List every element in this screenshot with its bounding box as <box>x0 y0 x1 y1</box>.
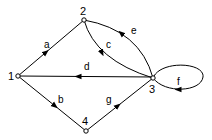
node-label-2: 2 <box>80 5 86 17</box>
node-4: 4 <box>82 115 88 133</box>
edge-label-e: e <box>131 25 137 36</box>
edge-c: c <box>84 20 153 78</box>
graph-diagram: a b c d e g f 1 2 <box>0 0 212 140</box>
edge-b: b <box>18 76 86 131</box>
edge-d: d <box>18 61 153 77</box>
node-label-3: 3 <box>149 83 155 95</box>
edge-label-b: b <box>58 94 64 105</box>
edge-g: g <box>86 78 153 131</box>
node-3: 3 <box>149 76 155 95</box>
edge-label-a: a <box>44 39 50 50</box>
edge-f: f <box>153 65 203 89</box>
node-2: 2 <box>80 5 86 22</box>
node-label-1: 1 <box>8 70 14 82</box>
node-label-4: 4 <box>82 115 88 127</box>
node-1: 1 <box>8 70 20 82</box>
edge-label-f: f <box>177 76 180 87</box>
edge-label-c: c <box>106 39 111 50</box>
edge-label-d: d <box>84 61 90 72</box>
edge-label-g: g <box>106 94 112 105</box>
edge-e: e <box>84 20 153 78</box>
edge-a: a <box>18 20 84 76</box>
